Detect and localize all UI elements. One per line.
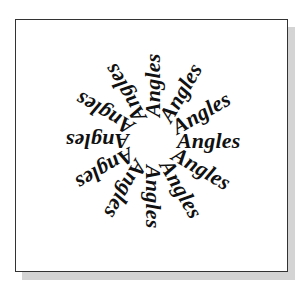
illustration-frame: Angles Angles Angles Angles Angles Angle… [15, 19, 288, 272]
